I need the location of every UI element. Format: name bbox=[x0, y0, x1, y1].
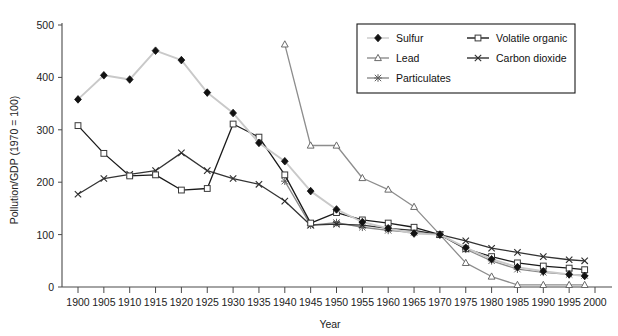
triangle-marker bbox=[281, 41, 288, 47]
legend-label-sulfur: Sulfur bbox=[396, 32, 424, 44]
x-tick-label: 1935 bbox=[247, 296, 271, 308]
square-marker bbox=[475, 35, 481, 41]
x-tick-label: 1990 bbox=[532, 296, 556, 308]
x-tick-label: 1940 bbox=[273, 296, 297, 308]
square-marker bbox=[204, 186, 210, 192]
x-tick-label: 1910 bbox=[118, 296, 142, 308]
x-tick-label: 1985 bbox=[506, 296, 530, 308]
x-tick-label: 2000 bbox=[583, 296, 607, 308]
series-volatile-organic bbox=[75, 121, 587, 272]
data-point-star bbox=[374, 74, 382, 82]
data-point-square bbox=[179, 187, 185, 193]
legend-label-particulates: Particulates bbox=[396, 72, 451, 84]
x-axis-title: Year bbox=[319, 318, 341, 330]
x-tick-label: 1905 bbox=[92, 296, 116, 308]
data-point-square bbox=[127, 173, 133, 179]
data-point-square bbox=[101, 150, 107, 156]
square-marker bbox=[153, 172, 159, 178]
data-point-triangle bbox=[281, 41, 288, 47]
data-point-square bbox=[475, 35, 481, 41]
legend-label-carbon-dioxide: Carbon dioxide bbox=[496, 52, 567, 64]
y-tick-label: 200 bbox=[36, 176, 54, 188]
x-tick-label: 1925 bbox=[196, 296, 220, 308]
x-tick-label: 1970 bbox=[428, 296, 452, 308]
x-tick-label: 1920 bbox=[170, 296, 194, 308]
x-tick-label: 1950 bbox=[325, 296, 349, 308]
data-point-square bbox=[204, 186, 210, 192]
triangle-marker bbox=[411, 203, 418, 209]
data-point-star bbox=[333, 219, 341, 227]
square-marker bbox=[101, 150, 107, 156]
x-tick-label: 1945 bbox=[299, 296, 323, 308]
line-chart: 0100200300400500190019051910191519201925… bbox=[0, 0, 618, 336]
x-tick-label: 1930 bbox=[221, 296, 245, 308]
square-marker bbox=[127, 173, 133, 179]
data-point-x bbox=[75, 191, 81, 197]
x-tick-label: 1960 bbox=[377, 296, 401, 308]
square-marker bbox=[282, 172, 288, 178]
data-point-square bbox=[75, 123, 81, 129]
data-point-triangle bbox=[411, 203, 418, 209]
data-point-square bbox=[153, 172, 159, 178]
data-point-triangle bbox=[488, 273, 495, 279]
x-tick-label: 1995 bbox=[557, 296, 581, 308]
y-tick-label: 500 bbox=[36, 19, 54, 31]
legend-label-volatile-organic: Volatile organic bbox=[496, 32, 567, 44]
x-tick-label: 1965 bbox=[402, 296, 426, 308]
y-tick-label: 0 bbox=[48, 281, 54, 293]
x-tick-label: 1975 bbox=[454, 296, 478, 308]
x-tick-label: 1980 bbox=[480, 296, 504, 308]
chart-root: 0100200300400500190019051910191519201925… bbox=[0, 0, 618, 336]
data-point-x bbox=[178, 150, 184, 156]
y-tick-label: 400 bbox=[36, 71, 54, 83]
square-marker bbox=[308, 220, 314, 226]
y-axis-title: Pollution/GDP (1970 = 100) bbox=[8, 96, 20, 225]
data-point-x bbox=[282, 198, 288, 204]
x-tick-label: 1900 bbox=[66, 296, 90, 308]
triangle-marker bbox=[488, 273, 495, 279]
y-tick-label: 300 bbox=[36, 124, 54, 136]
square-marker bbox=[179, 187, 185, 193]
y-tick-label: 100 bbox=[36, 229, 54, 241]
x-tick-label: 1915 bbox=[144, 296, 168, 308]
data-point-square bbox=[230, 121, 236, 127]
data-point-square bbox=[282, 172, 288, 178]
legend-label-lead: Lead bbox=[396, 52, 420, 64]
x-tick-label: 1955 bbox=[351, 296, 375, 308]
legend-layer[interactable]: SulfurLeadParticulatesVolatile organicCa… bbox=[357, 24, 575, 93]
square-marker bbox=[230, 121, 236, 127]
square-marker bbox=[75, 123, 81, 129]
data-point-square bbox=[308, 220, 314, 226]
